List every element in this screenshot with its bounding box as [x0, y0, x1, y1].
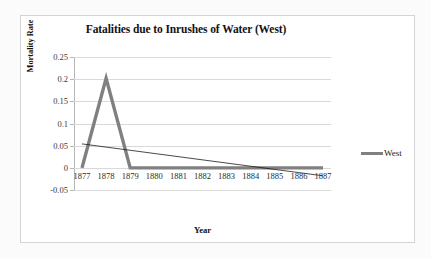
gridline [74, 190, 331, 191]
y-tick-label: -0.05 [22, 185, 68, 195]
x-axis-title: Year [74, 225, 331, 235]
legend-swatch-west [361, 152, 383, 155]
chart-area[interactable]: Fatalities due to Inrushes of Water (Wes… [20, 15, 415, 243]
y-tick-label: 0.05 [22, 141, 68, 151]
chart-legend[interactable]: West [361, 149, 402, 158]
x-tick-label: 1887 [303, 171, 343, 181]
chart-screenshot: Fatalities due to Inrushes of Water (Wes… [0, 0, 431, 259]
y-tick-label: 0.15 [22, 96, 68, 106]
x-axis-tick-labels: 1877187818791880188118821883188418851886… [74, 171, 331, 185]
y-tick-mark [70, 190, 74, 191]
series-line-west [82, 78, 323, 168]
chart-title: Fatalities due to Inrushes of Water (Wes… [21, 23, 351, 35]
y-tick-label: 0.2 [22, 74, 68, 84]
y-tick-label: 0.1 [22, 119, 68, 129]
legend-label-west: West [384, 149, 402, 158]
y-tick-label: 0.25 [22, 52, 68, 62]
